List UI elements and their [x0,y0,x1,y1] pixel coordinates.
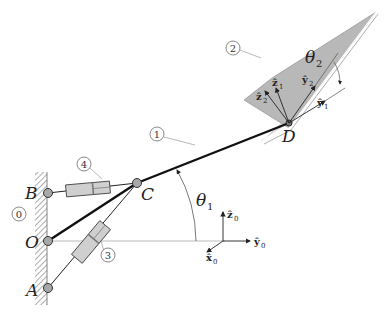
label-A: A [24,280,38,300]
joint-A [44,284,53,293]
svg-text:0: 0 [16,209,22,220]
svg-text:ẑ: ẑ [227,209,233,220]
label-C: C [141,184,154,204]
svg-text:ŷ: ŷ [253,236,261,247]
svg-text:1: 1 [154,129,160,140]
svg-text:2: 2 [316,58,322,69]
svg-text:0: 0 [213,258,217,266]
svg-text:1: 1 [207,201,213,212]
svg-text:ẑ: ẑ [272,77,278,88]
svg-text:θ: θ [305,47,315,67]
joint-B [44,189,53,198]
body-number-3: 3 [101,248,115,262]
svg-text:1: 1 [279,83,283,91]
theta1-label: θ 1 [196,190,213,212]
y1-label: ŷ 1 [316,97,328,111]
label-D: D [281,126,296,146]
body-number-1: 1 [150,127,164,141]
svg-text:x̂: x̂ [206,252,213,263]
label-O: O [25,232,39,252]
body-number-2: 2 [226,41,240,55]
theta1-arc [177,170,196,241]
body-number-0: 0 [12,207,26,221]
z0-label: ẑ 0 [227,209,238,223]
svg-text:0: 0 [234,215,238,223]
svg-text:2: 2 [309,80,313,88]
svg-text:0: 0 [261,242,265,250]
actuator-4 [48,181,137,197]
x0-label: x̂ 0 [206,252,217,266]
svg-text:3: 3 [105,250,111,261]
joint-O [44,237,53,246]
svg-text:ŷ: ŷ [316,97,324,108]
body-number-4: 4 [77,157,91,171]
svg-text:ẑ: ẑ [256,91,262,102]
svg-text:2: 2 [263,97,267,105]
actuator-3 [48,183,137,288]
y0-label: ŷ 0 [253,236,265,250]
plate-body-2 [244,12,378,144]
svg-text:2: 2 [230,43,236,54]
mechanism-diagram: 0 1 2 3 4 B O A C D θ 1 θ 2 ẑ 0 ŷ 0 x̂ 0 [0,0,387,314]
svg-text:4: 4 [81,159,87,170]
svg-text:ŷ: ŷ [301,74,309,85]
svg-text:1: 1 [324,103,328,111]
svg-text:θ: θ [196,190,206,210]
label-B: B [24,183,38,203]
